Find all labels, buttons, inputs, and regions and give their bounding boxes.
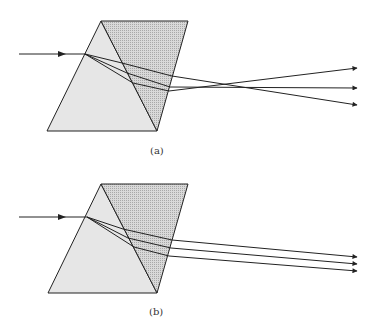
arrow-icon bbox=[58, 51, 66, 57]
caption-a: (a) bbox=[150, 145, 164, 156]
panel-b bbox=[19, 184, 357, 293]
panel-a bbox=[19, 21, 357, 131]
caption-b: (b) bbox=[149, 306, 163, 317]
arrow-icon bbox=[58, 214, 66, 220]
prism-diagram bbox=[0, 0, 371, 326]
